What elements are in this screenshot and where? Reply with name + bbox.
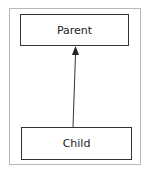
parent-node[interactable]: Parent bbox=[20, 14, 129, 46]
child-node[interactable]: Child bbox=[21, 127, 132, 160]
parent-label: Parent bbox=[57, 24, 92, 37]
child-label: Child bbox=[63, 137, 91, 150]
arrowhead-icon bbox=[72, 46, 79, 55]
